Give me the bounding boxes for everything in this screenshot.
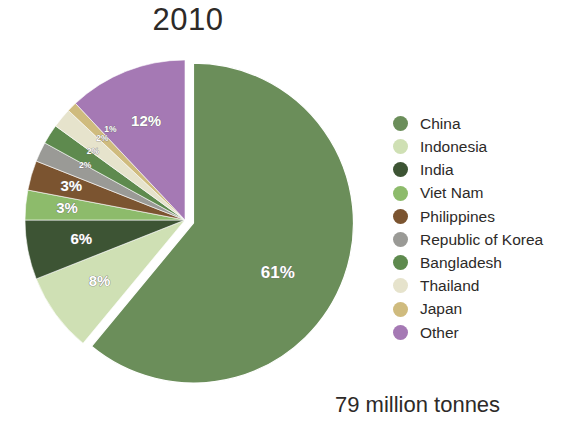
legend-item-label: Philippines bbox=[420, 209, 495, 225]
legend-swatch-icon bbox=[393, 232, 408, 247]
slice-value-label: 3% bbox=[56, 199, 78, 216]
legend-swatch-icon bbox=[393, 255, 408, 270]
legend-item-label: China bbox=[420, 116, 461, 132]
legend-item[interactable]: Thailand bbox=[393, 274, 579, 297]
slice-value-label: 12% bbox=[131, 112, 161, 129]
legend-item-label: Republic of Korea bbox=[420, 232, 543, 248]
legend-item[interactable]: Republic of Korea bbox=[393, 228, 579, 251]
slice-value-label: 1% bbox=[104, 124, 117, 134]
slice-value-label: 3% bbox=[60, 177, 82, 194]
legend-item[interactable]: China bbox=[393, 112, 579, 135]
slice-value-label: 2% bbox=[79, 160, 92, 170]
legend-swatch-icon bbox=[393, 186, 408, 201]
pie-svg: 61%8%6%3%3%2%2%2%1%12% bbox=[0, 48, 380, 396]
legend-swatch-icon bbox=[393, 139, 408, 154]
slice-value-label: 8% bbox=[89, 272, 111, 289]
slice-value-label: 61% bbox=[261, 263, 295, 282]
legend-item-label: Japan bbox=[420, 301, 462, 317]
legend-item[interactable]: Japan bbox=[393, 298, 579, 321]
legend-swatch-icon bbox=[393, 209, 408, 224]
legend-swatch-icon bbox=[393, 116, 408, 131]
legend-item[interactable]: Philippines bbox=[393, 205, 579, 228]
legend-item[interactable]: Indonesia bbox=[393, 135, 579, 158]
legend-item[interactable]: Other bbox=[393, 321, 579, 344]
legend-swatch-icon bbox=[393, 162, 408, 177]
legend-swatch-icon bbox=[393, 278, 408, 293]
slice-value-label: 2% bbox=[87, 146, 100, 156]
slice-value-label: 2% bbox=[96, 133, 109, 143]
legend-item-label: Indonesia bbox=[420, 139, 487, 155]
chart-title: 2010 bbox=[118, 2, 258, 38]
legend-item[interactable]: Viet Nam bbox=[393, 182, 579, 205]
legend-item-label: Other bbox=[420, 325, 459, 341]
pie-plot-area: 61%8%6%3%3%2%2%2%1%12% bbox=[0, 48, 380, 396]
legend-item-label: Thailand bbox=[420, 278, 479, 294]
chart-caption: 79 million tonnes bbox=[335, 392, 500, 418]
legend-item[interactable]: India bbox=[393, 158, 579, 181]
pie-chart-figure: 2010 61%8%6%3%3%2%2%2%1%12% ChinaIndones… bbox=[0, 0, 579, 430]
slice-value-label: 6% bbox=[70, 230, 92, 247]
legend-item-label: Viet Nam bbox=[420, 185, 483, 201]
legend-item[interactable]: Bangladesh bbox=[393, 251, 579, 274]
legend: ChinaIndonesiaIndiaViet NamPhilippinesRe… bbox=[393, 112, 579, 344]
legend-item-label: India bbox=[420, 162, 454, 178]
legend-item-label: Bangladesh bbox=[420, 255, 502, 271]
pie-slices-group bbox=[25, 60, 353, 383]
legend-swatch-icon bbox=[393, 325, 408, 340]
legend-swatch-icon bbox=[393, 302, 408, 317]
